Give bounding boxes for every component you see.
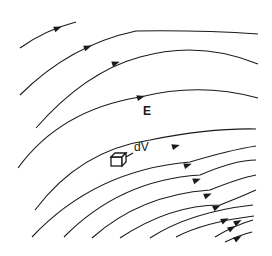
volume-element-cube-icon	[111, 153, 133, 166]
arrowhead-icon	[83, 43, 93, 52]
field-line	[18, 90, 258, 168]
field-line	[20, 22, 76, 48]
arrowhead-icon	[192, 176, 202, 184]
arrowhead-icon	[171, 142, 180, 150]
arrowhead-icon	[203, 191, 213, 200]
volume-label-dv: dV	[134, 140, 149, 154]
field-line	[20, 31, 258, 95]
arrowhead-icon	[136, 93, 145, 101]
field-lines	[0, 0, 272, 256]
field-line	[64, 160, 256, 237]
field-diagram: E dV	[0, 0, 272, 256]
arrowhead-icon	[53, 24, 63, 33]
field-line	[120, 190, 256, 238]
field-label-e: E	[143, 104, 151, 118]
